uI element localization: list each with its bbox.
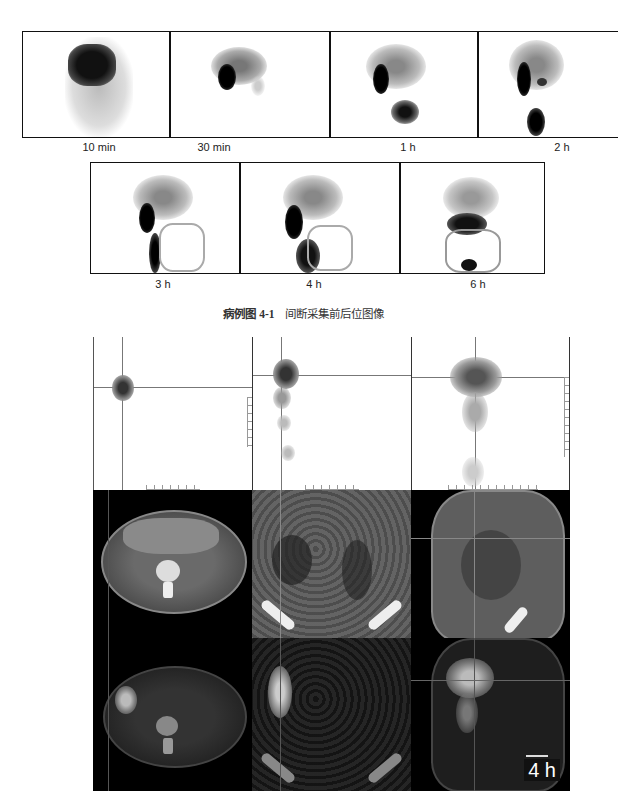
scan-frame-30min (170, 31, 330, 138)
caption-text: 间断采集前后位图像 (285, 307, 384, 321)
fusion-sagittal-panel: 4 h (411, 638, 570, 791)
frame-label-10min: 10 min (69, 141, 129, 153)
scan-frame-2h (478, 31, 618, 138)
time-tag: 4 h (524, 759, 560, 781)
frame-label-2h: 2 h (532, 141, 592, 153)
ct-sagittal-panel (411, 490, 570, 638)
caption-number: 病例图 4-1 (223, 308, 274, 320)
spect-axial-panel (93, 337, 252, 490)
figure-caption: 病例图 4-1间断采集前后位图像 (0, 305, 607, 321)
spect-sagittal-panel (411, 337, 570, 490)
ct-coronal-panel (252, 490, 411, 638)
frame-label-4h: 4 h (284, 278, 344, 290)
spect-coronal-panel (252, 337, 411, 490)
scan-frame-1h (330, 31, 478, 138)
frame-label-6h: 6 h (448, 278, 508, 290)
scan-frame-4h (240, 162, 400, 274)
scan-frame-3h (90, 162, 240, 274)
ct-axial-panel (93, 490, 252, 638)
frame-label-1h: 1 h (378, 141, 438, 153)
scan-frame-10min (22, 31, 170, 138)
frame-label-30min: 30 min (184, 141, 244, 153)
fusion-coronal-panel (252, 638, 411, 791)
fusion-axial-panel (93, 638, 252, 791)
frame-label-3h: 3 h (133, 278, 193, 290)
scan-frame-6h (400, 162, 545, 274)
